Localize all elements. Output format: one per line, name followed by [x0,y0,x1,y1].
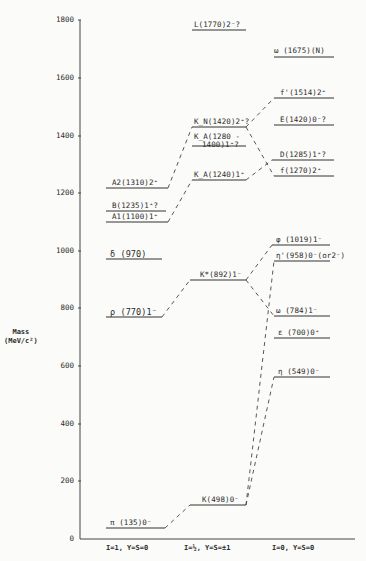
label-ka-1280-1400-line2: 1400)1⁺? [202,140,239,149]
label-kn: K_N(1420)2⁺? [194,117,249,126]
levels-column-i-half [190,30,246,505]
y-tick-0: 0 [34,534,74,543]
label-omega1675: ω (1675)(N) [274,46,325,55]
y-axis-label-line1: Mass [4,328,38,337]
x-category-i1: I=1, Y=S=0 [106,544,148,552]
conn-k-etaprime [246,261,274,505]
y-axis-label: Mass (MeV/c²) [4,328,38,346]
label-omega784: ω (784)1⁻ [276,306,318,315]
label-a2: A2(1310)2⁺ [112,178,158,187]
label-k: K(498)0⁻ [202,495,239,504]
y-tick-1200: 1200 [34,188,74,197]
connection-lines [162,98,274,528]
y-tick-1400: 1400 [34,131,74,140]
y-tick-1600: 1600 [34,73,74,82]
label-rho: ρ (770)1⁻ [110,307,157,317]
conn-ka-D [246,160,272,180]
label-L: L(1770)2⁻? [194,20,240,29]
y-tick-1800: 1800 [34,15,74,24]
label-f: f(1270)2⁺ [280,166,322,175]
label-delta: δ (970) [110,249,147,259]
label-ka-1240: K_A(1240)1⁺ [194,170,245,179]
conn-kn-fprime [246,98,274,127]
label-b: B(1235)1⁺? [112,201,158,210]
conn-pi-k [165,505,190,528]
y-tick-600: 600 [34,361,74,370]
label-etaprime: η'(958)0⁻(or2⁻) [276,251,345,260]
y-tick-200: 200 [34,476,74,485]
label-eta: η (549)0⁻ [278,367,320,376]
label-phi: φ (1019)1⁻ [276,235,322,244]
label-D: D(1285)1⁺? [280,150,326,159]
meson-mass-level-diagram: 1800 1600 1400 1200 1000 800 600 400 200… [0,0,366,561]
x-category-i0: I=0, Y=S=0 [272,544,314,552]
label-epsilon: ε (700)0⁺ [278,328,320,337]
conn-kstar-phi [246,245,272,280]
y-tick-800: 800 [34,303,74,312]
y-tick-400: 400 [34,419,74,428]
conn-a2-kn [168,127,192,188]
label-E: E(1420)0⁻? [280,115,326,124]
conn-rho-kstar [162,280,190,317]
y-axis-label-line2: (MeV/c²) [4,337,38,346]
conn-a1-ka [168,180,192,222]
x-category-i-half: I=½, Y=S=±1 [184,544,230,552]
y-tick-1000: 1000 [34,246,74,255]
levels-column-i1 [106,188,168,528]
label-fprime: f'(1514)2⁺ [280,88,326,97]
label-pi: π (135)0⁻ [110,518,152,527]
label-a1: A1(1100)1⁺ [112,212,158,221]
label-kstar: K*(892)1⁻ [200,270,242,279]
conn-kn-f [246,127,274,176]
conn-k-eta [246,377,274,505]
